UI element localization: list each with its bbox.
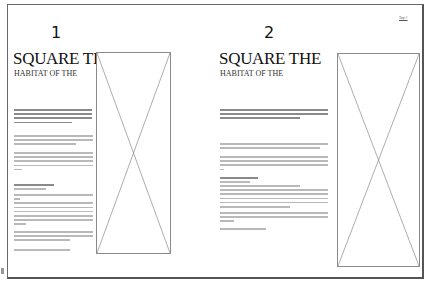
body-paragraph	[14, 152, 93, 173]
body-paragraph	[14, 231, 93, 244]
document-spread: 1 SQUARE THE HABITAT OF THE	[7, 4, 424, 279]
image-placeholder	[337, 53, 420, 267]
body-paragraph	[14, 194, 93, 228]
placeholder-cross-icon	[338, 54, 419, 266]
edge-marker	[1, 268, 4, 274]
body-paragraph	[220, 185, 328, 210]
page-number: 2	[264, 23, 274, 42]
page-title: SQUARE THE	[219, 49, 321, 69]
body-paragraph	[220, 212, 328, 225]
page-corner-tag: Top #	[399, 16, 408, 20]
body-paragraph	[220, 156, 328, 173]
intro-text-block	[14, 109, 92, 126]
page-subtitle: HABITAT OF THE	[220, 69, 283, 78]
body-paragraph	[220, 228, 280, 232]
section-heading	[14, 184, 74, 192]
body-paragraph	[14, 135, 93, 148]
page-2: Top # 2 SQUARE THE HABITAT OF THE	[215, 5, 422, 277]
placeholder-cross-icon	[97, 53, 170, 253]
page-subtitle: HABITAT OF THE	[14, 69, 77, 78]
body-paragraph	[14, 249, 74, 253]
body-paragraph	[220, 143, 328, 151]
page-number: 1	[51, 23, 61, 42]
page-1: 1 SQUARE THE HABITAT OF THE	[8, 5, 213, 277]
intro-text-block	[220, 109, 328, 122]
image-placeholder	[96, 52, 171, 254]
